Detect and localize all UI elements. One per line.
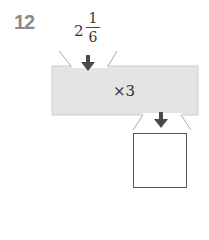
operation-label: ×3: [113, 82, 135, 100]
answer-box[interactable]: [133, 133, 187, 188]
output-funnel-left: [133, 115, 143, 130]
output-funnel-right: [181, 115, 191, 130]
input-funnel-right: [108, 51, 117, 66]
input-funnel-left: [59, 51, 71, 66]
